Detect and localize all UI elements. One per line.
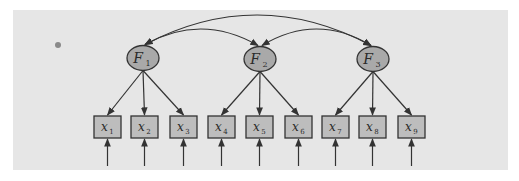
indicator-x8: x8 [359,116,386,138]
indicator-label: x [138,120,145,134]
indicator-label: x [366,120,373,134]
indicator-label: x [177,120,184,134]
indicator-x3: x3 [170,116,197,138]
observed-indicators: x1x2x3x4x5x6x7x8x9 [94,116,425,138]
factor-F1: F1 [127,46,159,71]
factor-subscript: 3 [375,60,380,69]
factor-subscript: 1 [145,59,150,68]
cfa-diagram: F1F2F3 x1x2x3x4x5x6x7x8x9 [0,0,519,181]
indicator-x6: x6 [285,116,312,138]
indicator-subscript: 2 [146,128,150,136]
indicator-x2: x2 [131,116,158,138]
indicator-subscript: 9 [413,128,417,136]
factor-F2: F2 [244,47,276,72]
indicator-x5: x5 [246,116,273,138]
indicator-subscript: 1 [109,128,113,136]
indicator-subscript: 8 [374,128,378,136]
indicator-label: x [292,120,299,134]
indicator-label: x [253,120,260,134]
factor-ellipse [357,47,389,72]
indicator-x9: x9 [398,116,425,138]
factor-ellipse [244,47,276,72]
diagram-panel [13,10,508,170]
indicator-subscript: 7 [337,128,341,136]
indicator-label: x [215,120,222,134]
bullet-dot [55,42,61,48]
factor-label: F [132,50,144,66]
indicator-subscript: 3 [185,128,189,136]
indicator-x7: x7 [322,116,349,138]
indicator-label: x [329,120,336,134]
indicator-label: x [101,120,108,134]
loading-F2-x5 [260,72,261,116]
indicator-x1: x1 [94,116,121,138]
indicator-subscript: 5 [261,128,265,136]
factor-F3: F3 [357,47,389,72]
indicator-subscript: 6 [300,128,305,136]
indicator-label: x [405,120,412,134]
indicator-x4: x4 [208,116,235,138]
factor-label: F [362,51,374,67]
loading-F3-x8 [373,72,374,116]
factor-label: F [249,51,261,67]
factor-ellipse [127,46,159,71]
factor-subscript: 2 [262,60,267,69]
indicator-subscript: 4 [223,128,228,136]
